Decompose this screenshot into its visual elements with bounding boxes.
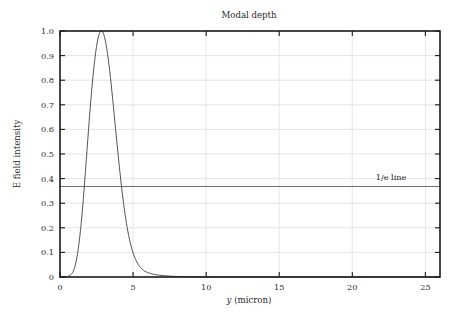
y-axis-label: E field intensity bbox=[12, 120, 22, 189]
one-over-e-label: 1/e line bbox=[376, 172, 407, 182]
x-axis-label: y (micron) bbox=[226, 295, 272, 305]
x-tick-label: 10 bbox=[201, 282, 211, 292]
y-tick-label: 0.4 bbox=[41, 174, 54, 184]
y-tick-label: 0.7 bbox=[41, 100, 54, 110]
x-tick-label: 5 bbox=[130, 282, 135, 292]
x-tick-label: 20 bbox=[347, 282, 357, 292]
x-axis-label-unit: (micron) bbox=[231, 295, 271, 305]
x-tick-label: 15 bbox=[274, 282, 284, 292]
chart-title: Modal depth bbox=[221, 10, 277, 20]
modal-depth-chart-figure: Modal depth 00.10.20.30.40.50.60.70.80.9… bbox=[0, 0, 463, 315]
y-tick-label: 0 bbox=[49, 272, 54, 282]
y-tick-label: 0.1 bbox=[41, 247, 54, 257]
chart-svg: Modal depth 00.10.20.30.40.50.60.70.80.9… bbox=[0, 0, 463, 315]
y-tick-label: 0.8 bbox=[41, 75, 54, 85]
y-tick-label: 0.2 bbox=[41, 223, 54, 233]
chart-background bbox=[0, 0, 463, 315]
y-tick-label: 0.5 bbox=[41, 149, 54, 159]
x-tick-label: 0 bbox=[57, 282, 62, 292]
y-tick-label: 0.3 bbox=[41, 198, 54, 208]
x-tick-label: 25 bbox=[420, 282, 430, 292]
chart-page: Modal depth 00.10.20.30.40.50.60.70.80.9… bbox=[0, 0, 463, 315]
y-tick-label: 0.9 bbox=[41, 51, 54, 61]
y-tick-label: 1.0 bbox=[41, 26, 54, 36]
y-tick-label: 0.6 bbox=[41, 124, 54, 134]
